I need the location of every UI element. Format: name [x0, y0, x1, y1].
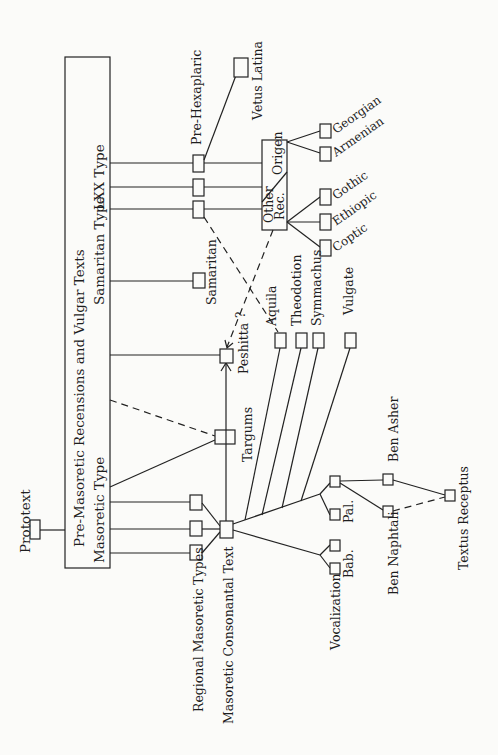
- vetus-latina-box: [234, 58, 248, 77]
- symmachus-label: Symmachus: [309, 250, 324, 326]
- vulgate-label: Vulgate: [341, 267, 356, 316]
- consonantal-box: [220, 521, 233, 538]
- vocalization-label: Vocalization: [328, 574, 343, 652]
- lxx-type-label: LXX Type: [91, 144, 107, 210]
- ben-naphtali-label: Ben Naphtali: [386, 511, 401, 595]
- pal-label: Pal.: [341, 500, 356, 523]
- lxx-box-2: [193, 179, 204, 196]
- pre-hexaplaric-box: [193, 155, 204, 172]
- regional-label: Regional Masoretic Types: [191, 547, 206, 712]
- regional-box-1: [190, 495, 202, 510]
- masoretic-type-label: Masoretic Type: [91, 457, 107, 563]
- question-mark: ?: [234, 312, 248, 318]
- samaritan-type-label: Samaritan Type: [91, 196, 107, 305]
- pre-hexaplaric-label: Pre-Hexaplaric: [189, 50, 204, 145]
- origen-label: Origen: [270, 131, 285, 175]
- aquila-box: [275, 333, 286, 348]
- bab-box-2: [330, 563, 340, 574]
- bab-label: Bab.: [341, 549, 356, 578]
- textual-history-diagram: Prototext Pre-Masoretic Recensions and V…: [0, 0, 498, 755]
- pal-box-2: [330, 509, 340, 520]
- theodotion-label: Theodotion: [289, 255, 304, 326]
- bab-box-1: [330, 540, 340, 551]
- ben-asher-box: [383, 474, 393, 485]
- aquila-label: Aquila: [264, 285, 279, 327]
- symmachus-box: [313, 333, 324, 348]
- targums-label: Targums: [240, 407, 255, 462]
- pal-box-1: [330, 476, 340, 487]
- vetus-latina-label: Vetus Latina: [250, 40, 265, 121]
- peshitta-box: [220, 349, 233, 363]
- targums-box: [215, 430, 235, 444]
- prototext-label: Prototext: [17, 489, 33, 553]
- peshitta-label: Peshitta: [236, 322, 251, 374]
- regional-box-2: [190, 521, 202, 536]
- main-box-label: Pre-Masoretic Recensions and Vulgar Text…: [71, 249, 87, 547]
- samaritan-label: Samaritan: [204, 239, 219, 305]
- theodotion-box: [296, 333, 307, 348]
- consonantal-label: Masoretic Consonantal Text: [221, 547, 236, 724]
- lxx-box-3: [193, 201, 204, 218]
- vulgate-box: [345, 333, 356, 348]
- ben-asher-label: Ben Asher: [386, 397, 401, 462]
- textus-receptus-box: [445, 490, 455, 501]
- textus-receptus-label: Textus Receptus: [456, 466, 471, 570]
- other-rec-label-2: Rec.: [272, 192, 287, 220]
